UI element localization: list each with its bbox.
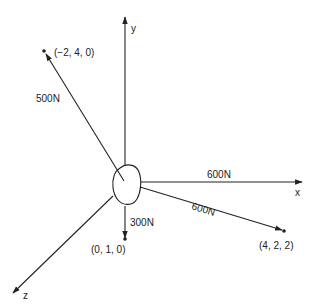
x-axis: x bbox=[140, 182, 302, 198]
point-label: (0, 1, 0) bbox=[91, 244, 125, 255]
force-300n: 300N (0, 1, 0) bbox=[91, 206, 154, 255]
z-axis-label: z bbox=[23, 290, 28, 301]
point-dot bbox=[42, 49, 46, 53]
force-diagram: y x z (−2, 4, 0) 500N 600N 600N bbox=[0, 0, 311, 305]
force-600n-x: 600N bbox=[207, 169, 231, 180]
y-axis-label: y bbox=[131, 23, 136, 34]
force-600n-diag: 600N (4, 2, 2) bbox=[140, 187, 293, 251]
rigid-body-blob bbox=[113, 165, 141, 204]
point-dot bbox=[123, 237, 127, 241]
x-axis-label: x bbox=[295, 187, 300, 198]
point-label: (−2, 4, 0) bbox=[54, 47, 94, 58]
point-label: (4, 2, 2) bbox=[259, 240, 293, 251]
force-magnitude-label: 600N bbox=[190, 200, 216, 218]
point-dot bbox=[282, 229, 286, 233]
force-magnitude-label: 600N bbox=[207, 169, 231, 180]
force-500n: (−2, 4, 0) 500N bbox=[36, 47, 124, 181]
force-magnitude-label: 500N bbox=[36, 93, 60, 104]
y-axis: y bbox=[125, 17, 136, 167]
force-magnitude-label: 300N bbox=[130, 217, 154, 228]
